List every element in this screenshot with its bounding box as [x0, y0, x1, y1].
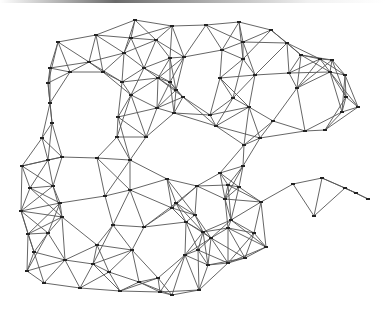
mesh-node [354, 192, 358, 194]
mesh-node [158, 291, 162, 293]
mesh-node [60, 216, 64, 218]
mesh-edge [93, 245, 97, 264]
mesh-node [32, 251, 36, 253]
mesh-edge [239, 187, 261, 202]
mesh-edge [113, 225, 144, 227]
mesh-edge [222, 22, 239, 50]
mesh-node [95, 244, 99, 246]
mesh-edge [97, 225, 113, 245]
mesh-edge [197, 173, 220, 186]
mesh-edge [273, 121, 305, 131]
mesh-node [20, 165, 24, 167]
mesh-node [137, 281, 141, 283]
mesh-node [115, 136, 119, 138]
mesh-edge [113, 225, 132, 250]
mesh-node [156, 277, 160, 279]
mesh-edge [21, 166, 22, 211]
mesh-node [330, 59, 334, 61]
mesh-node [209, 237, 213, 239]
mesh-node [118, 290, 122, 292]
mesh-node [103, 195, 107, 197]
mesh-edge [22, 166, 30, 188]
mesh-edge [122, 53, 124, 82]
mesh-node [243, 257, 247, 259]
mesh-node [340, 111, 344, 113]
mesh-edge [197, 185, 228, 186]
mesh-edges [21, 20, 368, 295]
mesh-edge [48, 42, 58, 83]
mesh-edge [27, 234, 28, 271]
mesh-node [356, 106, 360, 108]
mesh-edge [50, 68, 70, 72]
mesh-node [181, 96, 185, 98]
mesh-edge [28, 217, 62, 234]
mesh-edge [208, 238, 211, 265]
mesh-edge [80, 288, 120, 291]
mesh-edge [48, 157, 62, 160]
mesh-edge [199, 263, 228, 290]
mesh-node [154, 39, 158, 41]
mesh-node [223, 198, 227, 200]
mesh-edge [130, 137, 146, 160]
mesh-node [87, 61, 91, 63]
mesh-node [271, 120, 275, 122]
mesh-node [40, 137, 44, 139]
mesh-node [170, 207, 174, 209]
mesh-edge [255, 73, 289, 75]
mesh-edge [220, 78, 233, 98]
mesh-edge [62, 217, 97, 245]
mesh-edge [27, 271, 44, 283]
mesh-node [50, 122, 54, 124]
mesh-edge [345, 75, 358, 107]
mesh-edge [97, 245, 132, 250]
mesh-edge [65, 260, 80, 288]
mesh-edge [206, 22, 239, 25]
mesh-edge [58, 42, 89, 62]
mesh-node [241, 165, 245, 167]
mesh-edge [105, 196, 113, 225]
mesh-edge [170, 57, 184, 58]
mesh-edge [132, 250, 158, 278]
mesh-node [291, 183, 295, 185]
mesh-edge [244, 107, 249, 145]
mesh-node [241, 58, 245, 60]
mesh-edge [289, 73, 297, 88]
mesh-node [48, 102, 52, 104]
mesh-node [258, 137, 262, 139]
mesh-edge [132, 227, 144, 250]
mesh-edge [167, 179, 172, 208]
mesh-node [26, 233, 30, 235]
mesh-node [130, 249, 134, 251]
mesh-node [299, 54, 303, 56]
mesh-edge [44, 283, 80, 288]
mesh-edge [113, 190, 130, 225]
mesh-edge [184, 25, 206, 57]
mesh-edge [249, 107, 273, 121]
mesh-node [201, 231, 205, 233]
mesh-edge [243, 42, 287, 43]
mesh-node [343, 74, 347, 76]
mesh-node [285, 42, 289, 44]
mesh-edge [220, 59, 243, 78]
mesh-edge [342, 107, 358, 112]
mesh-node [170, 294, 174, 296]
mesh-edge [243, 145, 244, 166]
mesh-edge [170, 26, 172, 58]
mesh-edge [65, 260, 93, 264]
mesh-edge [131, 38, 156, 40]
mesh-node [193, 214, 197, 216]
mesh-node [46, 82, 50, 84]
mesh-edge [231, 202, 261, 220]
mesh-node [142, 226, 146, 228]
mesh-node [287, 72, 291, 74]
mesh-edge [254, 202, 261, 233]
mesh-edge [216, 126, 260, 138]
mesh-edge [118, 117, 130, 160]
mesh-edge [48, 160, 53, 186]
mesh-node [231, 97, 235, 99]
mesh-node [133, 19, 137, 21]
mesh-node [78, 287, 82, 289]
mesh-edge [222, 50, 243, 59]
mesh-edge [144, 68, 170, 82]
mesh-edge [120, 291, 160, 292]
